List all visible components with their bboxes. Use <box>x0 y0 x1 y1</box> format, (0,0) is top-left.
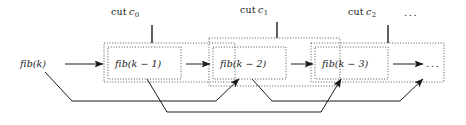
trailing-ellipsis: ... <box>404 7 418 18</box>
cut-label-c0-subscript: 0 <box>135 11 139 19</box>
cut-label-c0-word: cut <box>111 6 127 17</box>
fibonacci-cut-diagram: cutc0 cutc1 cutc2 ... fib(k) fib(k − 1) … <box>0 0 466 125</box>
feedback-arrows <box>45 72 423 112</box>
cut-label-c0-var: c <box>129 6 134 17</box>
node-label-fib-k-3: fib(k − 3) <box>322 58 368 69</box>
cut-label-c2-word: cut <box>348 6 364 17</box>
cut-label-c1: cutc1 <box>240 4 268 17</box>
node-label-fib-k-2: fib(k − 2) <box>220 58 266 69</box>
cut-label-c1-word: cut <box>240 4 256 15</box>
cut-label-c0: cutc0 <box>111 6 139 19</box>
cut-label-c2-var: c <box>366 6 371 17</box>
feedback-arrow-n0-n2 <box>45 72 239 101</box>
node-label-tail-ellipsis: ... <box>426 58 440 69</box>
cut-label-c1-subscript: 1 <box>264 9 268 17</box>
feedback-arrow-n1-n3 <box>147 79 341 112</box>
cut-label-c2: cutc2 <box>348 6 376 19</box>
cut-label-c2-subscript: 2 <box>372 11 376 19</box>
node-label-fib-k: fib(k) <box>20 58 46 69</box>
cut-label-c1-var: c <box>258 4 263 15</box>
node-label-fib-k-1: fib(k − 1) <box>115 58 161 69</box>
cut-tick-marks <box>152 22 388 43</box>
